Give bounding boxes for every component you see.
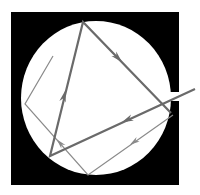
circular-cavity bbox=[21, 21, 171, 175]
ray-reflection-diagram bbox=[0, 0, 200, 195]
